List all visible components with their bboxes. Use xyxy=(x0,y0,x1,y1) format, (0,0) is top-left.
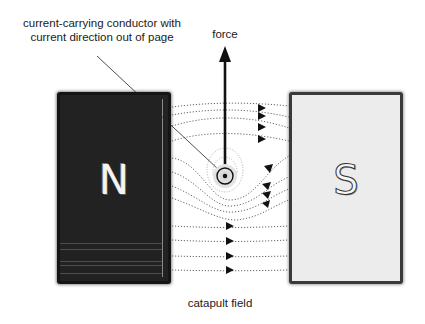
arrowhead-icon xyxy=(262,191,271,199)
arrowhead-icon xyxy=(258,112,266,120)
arrowhead-icon xyxy=(226,237,234,245)
force-arrow xyxy=(219,46,231,168)
conductor-leader-line xyxy=(97,56,219,170)
arrowhead-icon xyxy=(264,164,273,173)
arrowhead-icon xyxy=(226,222,234,230)
arrowhead-icon xyxy=(258,104,266,112)
arrowhead-icon xyxy=(262,182,271,190)
arrowhead-icon xyxy=(226,266,234,274)
magnetic-field-diagram xyxy=(0,0,425,324)
arrowhead-icon xyxy=(226,252,234,260)
arrow-up-icon xyxy=(219,46,231,62)
conductor-out-of-page-icon xyxy=(213,164,237,188)
arrowhead-icon xyxy=(258,123,266,131)
field-direction-arrows xyxy=(226,104,273,274)
field-lines xyxy=(172,103,289,271)
